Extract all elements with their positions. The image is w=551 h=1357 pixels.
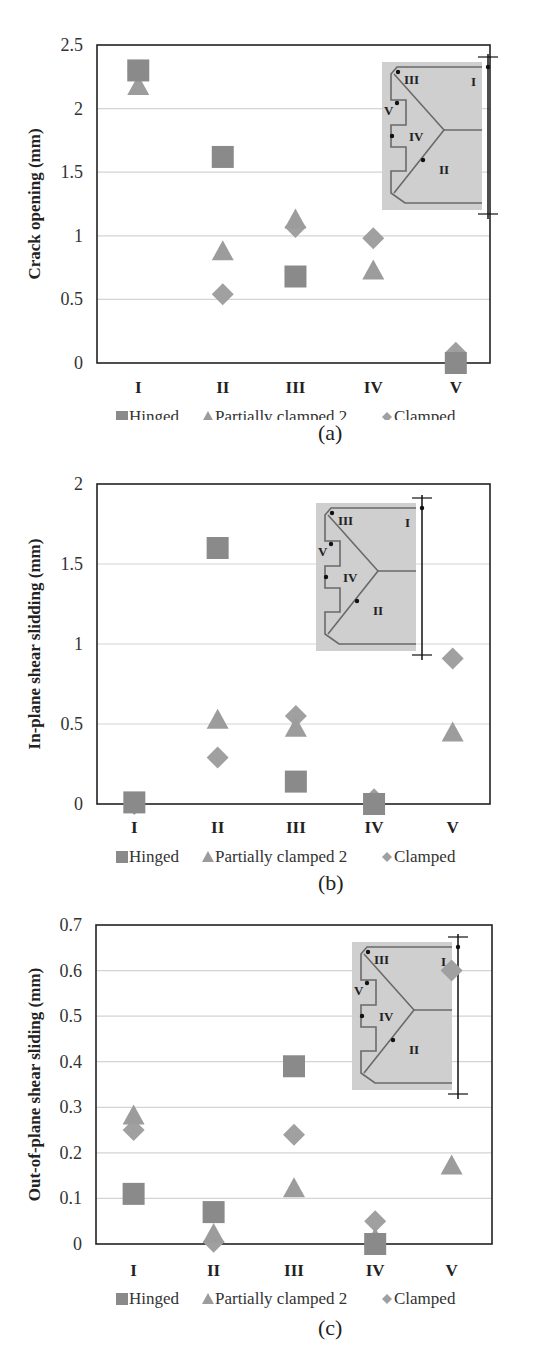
svg-text:II: II xyxy=(409,1042,419,1057)
data-point-square xyxy=(285,771,307,793)
svg-text:I: I xyxy=(405,515,410,530)
data-point-square xyxy=(203,1201,225,1223)
data-point-diamond xyxy=(212,283,234,305)
svg-text:III: III xyxy=(404,72,419,87)
data-point-triangle xyxy=(362,259,384,279)
y-tick-label: 0.1 xyxy=(60,1188,83,1208)
legend-label-clamped: Clamped xyxy=(394,407,456,420)
data-point-square xyxy=(123,791,145,813)
y-tick-label: 1 xyxy=(74,226,83,246)
x-axis-ticks: IIIIIIIVV xyxy=(130,1261,458,1280)
x-tick-label: V xyxy=(445,1261,458,1280)
svg-text:IV: IV xyxy=(409,129,424,144)
svg-text:V: V xyxy=(318,544,328,559)
chart-panel-b: 00.511.52In-plane shear slidding (mm)III… xyxy=(0,460,551,900)
legend-label-partially-clamped: Partially clamped 2 xyxy=(215,407,347,420)
data-point-diamond xyxy=(207,747,229,769)
y-tick-label: 0 xyxy=(73,1234,82,1254)
data-point-triangle xyxy=(441,1155,463,1175)
data-point-square xyxy=(123,1183,145,1205)
legend-triangle-icon xyxy=(202,411,214,420)
x-tick-label: V xyxy=(450,378,463,397)
data-point-diamond xyxy=(362,227,384,249)
y-axis-ticks: 00.511.522.5 xyxy=(61,35,84,373)
y-tick-label: 2.5 xyxy=(61,35,84,55)
inset-slab-diagram: IIIIVIVII xyxy=(316,495,432,660)
caption-a: (a) xyxy=(318,420,342,446)
legend-triangle-icon xyxy=(202,851,214,862)
legend-label-partially-clamped: Partially clamped 2 xyxy=(215,1289,347,1308)
x-tick-label: I xyxy=(131,818,138,837)
gridlines xyxy=(97,564,490,724)
y-tick-label: 0.5 xyxy=(61,714,84,734)
data-point-square xyxy=(207,537,229,559)
data-point-square xyxy=(363,793,385,815)
y-tick-label: 2 xyxy=(74,99,83,119)
legend-square-icon xyxy=(116,1293,128,1305)
y-tick-label: 0.6 xyxy=(60,961,83,981)
svg-text:V: V xyxy=(384,103,394,118)
y-axis-label: Out-of-plane shear sliding (mm) xyxy=(25,968,44,1201)
y-tick-label: 0 xyxy=(74,353,83,373)
legend-label-hinged: Hinged xyxy=(129,847,180,866)
y-tick-label: 0.5 xyxy=(60,1006,83,1026)
x-tick-label: IV xyxy=(364,378,384,397)
chart-c-svg: 00.10.20.30.40.50.60.7Out-of-plane shear… xyxy=(0,895,551,1315)
legend-label-hinged: Hinged xyxy=(129,1289,180,1308)
caption-b: (b) xyxy=(318,870,344,896)
x-tick-label: I xyxy=(130,1261,137,1280)
data-point-square xyxy=(212,146,234,168)
y-axis-label: Crack opening (mm) xyxy=(25,128,44,279)
data-point-triangle xyxy=(207,709,229,729)
data-point-triangle xyxy=(212,240,234,260)
x-tick-label: II xyxy=(216,378,230,397)
chart-a-svg: 00.511.522.5Crack opening (mm)IIIIVIVIII… xyxy=(0,0,551,420)
y-axis-label: In-plane shear slidding (mm) xyxy=(25,539,44,750)
svg-text:IV: IV xyxy=(343,570,358,585)
legend-diamond-icon xyxy=(382,412,392,420)
x-tick-label: III xyxy=(286,378,306,397)
x-tick-label: III xyxy=(284,1261,304,1280)
legend: HingedPartially clamped 2Clamped xyxy=(116,847,456,866)
legend-label-clamped: Clamped xyxy=(394,1289,456,1308)
y-tick-label: 1.5 xyxy=(61,554,84,574)
legend-diamond-icon xyxy=(382,852,392,862)
y-tick-label: 0.7 xyxy=(60,915,83,935)
svg-text:I: I xyxy=(471,74,476,89)
series-square xyxy=(123,1055,387,1255)
y-axis-ticks: 00.511.52 xyxy=(61,474,84,814)
legend-label-partially-clamped: Partially clamped 2 xyxy=(215,847,347,866)
x-tick-label: I xyxy=(135,378,142,397)
x-tick-label: IV xyxy=(365,818,385,837)
y-tick-label: 1 xyxy=(74,634,83,654)
inset-slab-diagram: IIIIVIVII xyxy=(382,54,498,219)
y-tick-label: 0.3 xyxy=(60,1097,83,1117)
y-tick-label: 2 xyxy=(74,474,83,494)
y-tick-label: 0.5 xyxy=(61,289,84,309)
inset-slab-diagram: IIIIVIVII xyxy=(352,934,468,1099)
data-point-square xyxy=(364,1233,386,1255)
data-point-square xyxy=(284,266,306,288)
legend-label-clamped: Clamped xyxy=(394,847,456,866)
legend-triangle-icon xyxy=(202,1293,214,1304)
svg-text:III: III xyxy=(338,513,353,528)
x-tick-label: II xyxy=(207,1261,221,1280)
x-tick-label: V xyxy=(447,818,460,837)
data-point-square xyxy=(127,59,149,81)
data-point-square xyxy=(283,1055,305,1077)
svg-text:III: III xyxy=(374,952,389,967)
x-axis-ticks: IIIIIIIVV xyxy=(131,818,460,837)
x-axis-ticks: IIIIIIIVV xyxy=(135,378,463,397)
chart-panel-c: 00.10.20.30.40.50.60.7Out-of-plane shear… xyxy=(0,895,551,1357)
x-tick-label: III xyxy=(286,818,306,837)
data-point-triangle xyxy=(284,209,306,229)
chart-b-svg: 00.511.52In-plane shear slidding (mm)III… xyxy=(0,460,551,870)
y-tick-label: 0 xyxy=(74,794,83,814)
data-point-diamond xyxy=(283,1124,305,1146)
svg-text:V: V xyxy=(354,983,364,998)
data-point-triangle xyxy=(203,1223,225,1243)
legend-diamond-icon xyxy=(382,1294,392,1304)
chart-panel-a: 00.511.522.5Crack opening (mm)IIIIVIVIII… xyxy=(0,0,551,460)
legend: HingedPartially clamped 2Clamped xyxy=(116,407,456,420)
data-point-diamond xyxy=(442,647,464,669)
